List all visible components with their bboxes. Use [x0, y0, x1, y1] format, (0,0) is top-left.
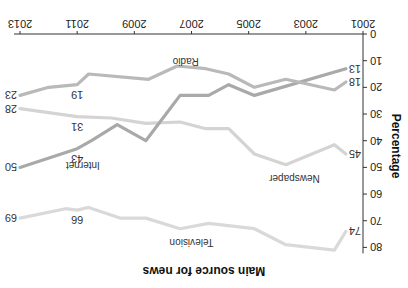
value-label: 13: [349, 63, 361, 75]
line-chart: 2001200320052007200920112013010203040506…: [0, 0, 408, 288]
x-tick-label: 2003: [294, 18, 318, 30]
y-tick-label: 0: [370, 28, 376, 40]
value-label: 19: [71, 89, 83, 101]
x-tick-label: 2009: [122, 18, 146, 30]
series-name-television: Television: [170, 237, 214, 248]
series-name-radio: Radio: [172, 56, 199, 67]
y-tick-label: 20: [370, 81, 382, 93]
value-label: 50: [5, 161, 17, 173]
y-tick-label: 80: [370, 241, 382, 253]
series-line-radio: [20, 66, 346, 95]
value-label: 74: [349, 225, 361, 237]
value-label: 66: [71, 214, 83, 226]
y-tick-label: 50: [370, 161, 382, 173]
y-tick-label: 60: [370, 188, 382, 200]
y-tick-label: 40: [370, 135, 382, 147]
y-tick-label: 70: [370, 215, 382, 227]
axes: 2001200320052007200920112013010203040506…: [8, 18, 382, 253]
value-label: 45: [349, 148, 361, 160]
value-label: 23: [5, 89, 17, 101]
x-tick-label: 2013: [8, 18, 32, 30]
series-line-newspaper: [20, 109, 346, 165]
y-tick-label: 10: [370, 55, 382, 67]
value-label: 31: [71, 121, 83, 133]
x-tick-label: 2011: [65, 18, 89, 30]
value-label: 18: [349, 76, 361, 88]
value-label: 28: [5, 103, 17, 115]
series-lines: [20, 66, 346, 250]
series-line-internet: [20, 69, 346, 168]
x-tick-label: 2007: [179, 18, 203, 30]
rotated-chart-container: Main source for news Percentage 20012003…: [0, 0, 408, 288]
value-label: 69: [5, 212, 17, 224]
series-name-internet: Internet: [66, 160, 100, 171]
y-tick-label: 30: [370, 108, 382, 120]
x-tick-label: 2005: [236, 18, 260, 30]
series-name-newspaper: Newspaper: [268, 173, 319, 184]
